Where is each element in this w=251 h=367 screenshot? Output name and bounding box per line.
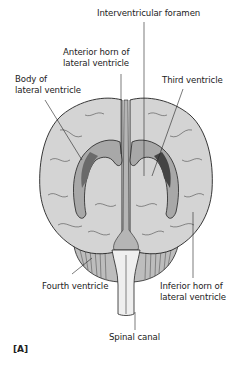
label-spinal-canal: Spinal canal (109, 332, 160, 343)
label-third-ventricle: Third ventricle (162, 75, 223, 86)
label-anterior-horn-line1: Anterior horn of (63, 47, 129, 58)
label-fourth-ventricle: Fourth ventricle (42, 281, 108, 292)
figure-id-label: [A] (13, 344, 28, 354)
label-inferior-line2: lateral ventricle (160, 292, 226, 303)
label-inferior-line1: Inferior horn of (160, 281, 226, 292)
label-anterior-horn: Anterior horn of lateral ventricle (63, 47, 129, 69)
label-body-line2: lateral ventricle (15, 85, 81, 96)
label-anterior-horn-line2: lateral ventricle (63, 58, 129, 69)
label-body-lateral-ventricle: Body of lateral ventricle (15, 74, 81, 96)
label-interventricular-foramen: Interventricular foramen (97, 8, 200, 19)
label-body-line1: Body of (15, 74, 81, 85)
label-inferior-horn: Inferior horn of lateral ventricle (160, 281, 226, 303)
